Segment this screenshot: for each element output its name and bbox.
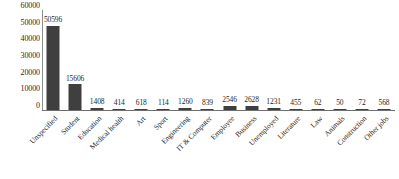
x-tick-label: Art — [134, 114, 147, 127]
x-tick-slot: Unspecified — [42, 112, 64, 179]
bar-slot: 62 — [307, 10, 329, 110]
bar-value-label: 2546 — [222, 96, 237, 104]
y-tick-label: 50000 — [0, 19, 40, 27]
x-tick-slot: Medical health — [108, 112, 130, 179]
x-tick-slot: Employee — [219, 112, 241, 179]
bar-value-label: 618 — [136, 99, 147, 107]
bar[interactable] — [135, 109, 148, 110]
x-tick-slot: Unemployed — [263, 112, 285, 179]
bar-slot: 50 — [329, 10, 351, 110]
bar-value-label: 1408 — [90, 98, 105, 106]
bar[interactable] — [223, 106, 236, 110]
bar-value-label: 414 — [114, 99, 125, 107]
bar-slot: 114 — [152, 10, 174, 110]
bar-slot: 72 — [351, 10, 373, 110]
bar-value-label: 50 — [336, 99, 343, 107]
y-tick-label: 30000 — [0, 52, 40, 60]
bar[interactable] — [377, 109, 390, 110]
bar-slot: 1408 — [86, 10, 108, 110]
x-axis-line — [42, 110, 395, 111]
bar[interactable] — [179, 108, 192, 110]
bar-slot: 15606 — [64, 10, 86, 110]
bar-slot: 2628 — [241, 10, 263, 110]
bar-value-label: 15606 — [66, 75, 84, 83]
x-tick-slot: Other jobs — [373, 112, 395, 179]
bar-slot: 839 — [196, 10, 218, 110]
bars-layer: 5059615606140841461811412608392546262812… — [42, 10, 395, 110]
bar-value-label: 1231 — [266, 98, 281, 106]
bar[interactable] — [311, 109, 324, 110]
bar-value-label: 1260 — [178, 98, 193, 106]
bar-slot: 568 — [373, 10, 395, 110]
x-tick-slot: Art — [130, 112, 152, 179]
y-tick-label: 60000 — [0, 2, 40, 10]
bar-value-label: 62 — [314, 99, 321, 107]
x-tick-slot: IT & Computer — [196, 112, 218, 179]
bar[interactable] — [69, 84, 82, 110]
x-tick-slot: Sport — [152, 112, 174, 179]
bar[interactable] — [201, 109, 214, 110]
bar-value-label: 50596 — [44, 16, 62, 24]
bar-value-label: 455 — [290, 99, 301, 107]
bar[interactable] — [355, 109, 368, 110]
x-tick-slot: Student — [64, 112, 86, 179]
bar[interactable] — [245, 106, 258, 110]
x-tick-slot: Literature — [285, 112, 307, 179]
bar-slot: 618 — [130, 10, 152, 110]
x-tick-label: Sport — [152, 114, 170, 132]
y-tick-label: 40000 — [0, 35, 40, 43]
bar-slot: 414 — [108, 10, 130, 110]
bar-value-label: 114 — [158, 99, 169, 107]
bar[interactable] — [47, 26, 60, 110]
y-tick-label: 0 — [0, 102, 40, 110]
bar[interactable] — [289, 109, 302, 110]
bar-value-label: 72 — [358, 99, 365, 107]
bar-slot: 455 — [285, 10, 307, 110]
bar-slot: 1260 — [174, 10, 196, 110]
y-axis-tick-labels: 0100002000030000400005000060000 — [0, 6, 40, 110]
y-tick-label: 20000 — [0, 69, 40, 77]
bar-value-label: 839 — [202, 99, 213, 107]
x-tick-label: Law — [308, 114, 324, 130]
bar[interactable] — [333, 109, 346, 110]
bar-value-label: 568 — [378, 99, 389, 107]
bar-slot: 1231 — [263, 10, 285, 110]
bar[interactable] — [267, 108, 280, 110]
x-tick-slot: Construction — [351, 112, 373, 179]
x-tick-slot: Law — [307, 112, 329, 179]
bar-chart: 0100002000030000400005000060000 50596156… — [0, 0, 399, 179]
bar[interactable] — [113, 109, 126, 110]
x-tick-label: Unspecified — [28, 114, 60, 146]
bar-slot: 2546 — [219, 10, 241, 110]
bar[interactable] — [91, 108, 104, 110]
bar-value-label: 2628 — [244, 96, 259, 104]
bar[interactable] — [157, 109, 170, 110]
y-tick-label: 10000 — [0, 85, 40, 93]
x-axis-category-labels: UnspecifiedStudentEducationMedical healt… — [42, 112, 395, 179]
bar-slot: 50596 — [42, 10, 64, 110]
